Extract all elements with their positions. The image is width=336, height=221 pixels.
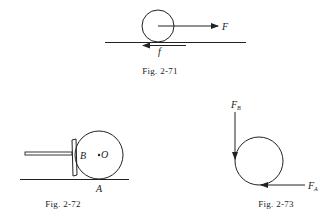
figure-2-72: B O A Fig. 2-72 xyxy=(20,131,129,209)
push-rod xyxy=(25,152,72,155)
center-dot xyxy=(98,154,100,156)
figure-2-73: FB FA Fig. 2-73 xyxy=(230,99,318,209)
figure-caption: Fig. 2-71 xyxy=(142,66,178,76)
figure-2-71: F f Fig. 2-71 xyxy=(105,10,246,76)
figures-canvas: F f Fig. 2-71 B O A Fig. 2-72 FB FA Fig.… xyxy=(0,0,336,221)
figure-caption: Fig. 2-72 xyxy=(45,199,81,209)
point-a-label: A xyxy=(95,183,103,194)
force-f-label: F xyxy=(221,21,229,32)
push-plate xyxy=(72,139,77,176)
force-fb-label: FB xyxy=(230,99,241,111)
friction-label: f xyxy=(158,46,162,57)
point-b-label: B xyxy=(80,150,86,161)
body-circle xyxy=(235,137,283,185)
force-fa-label: FA xyxy=(307,180,318,192)
figure-caption: Fig. 2-73 xyxy=(258,199,294,209)
point-o-label: O xyxy=(101,149,108,160)
